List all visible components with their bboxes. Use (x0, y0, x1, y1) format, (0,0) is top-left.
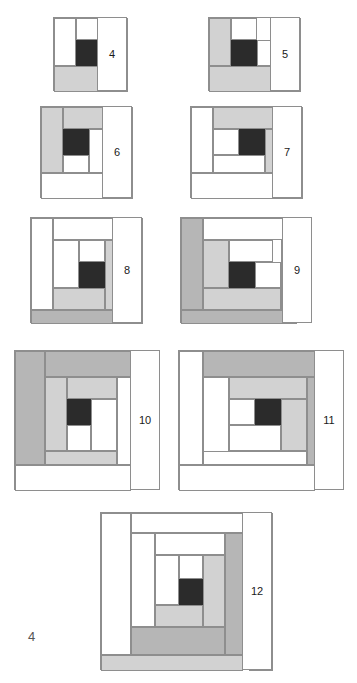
patch-log-7 (203, 351, 315, 377)
patch-center-square (79, 262, 105, 288)
patch-log-1 (179, 555, 203, 579)
block-number-label-5: 5 (270, 17, 300, 91)
page-number: 4 (28, 629, 35, 644)
patch-log-2 (63, 155, 89, 173)
patch-center-square (63, 129, 89, 155)
patch-log-3 (53, 288, 105, 310)
block-number-text: 11 (323, 415, 334, 426)
patch-center-square (67, 399, 91, 425)
patch-log-3 (209, 18, 231, 66)
patch-log-4 (281, 399, 307, 451)
patch-log-3 (203, 240, 229, 288)
patch-center-square (255, 399, 281, 425)
patch-log-6 (117, 377, 131, 465)
patch-log-5 (155, 533, 225, 555)
block-number-label-4: 4 (97, 17, 127, 91)
block-number-label-8: 8 (112, 217, 142, 323)
patch-log-9 (15, 465, 131, 491)
patch-log-9 (131, 513, 249, 533)
block-number-text: 10 (139, 415, 151, 426)
patch-log-5 (191, 107, 213, 173)
patch-log-6 (181, 218, 203, 310)
patch-log-3 (229, 377, 307, 399)
patch-log-3 (54, 66, 102, 92)
patch-log-4 (203, 555, 225, 627)
patch-log-11 (101, 655, 243, 671)
patch-log-1 (79, 240, 105, 262)
patch-center-square (179, 579, 203, 605)
patch-center-square (229, 262, 255, 288)
block-number-text: 8 (124, 265, 130, 276)
patch-log-3 (155, 605, 203, 627)
patch-log-2 (229, 425, 281, 451)
patch-log-10 (101, 513, 131, 655)
diagram-page: 456789101112 4 (0, 0, 357, 683)
patch-log-1 (229, 240, 273, 262)
patch-log-2 (54, 18, 76, 66)
patch-log-1 (229, 399, 255, 425)
patch-log-7 (131, 627, 225, 655)
patch-log-7 (181, 310, 297, 324)
patch-log-1 (67, 425, 91, 451)
patch-log-1 (231, 18, 257, 40)
patch-log-2 (213, 155, 265, 173)
patch-log-8 (15, 351, 45, 465)
patch-center-square (231, 40, 257, 66)
patch-log-2 (53, 240, 79, 288)
block-number-label-11: 11 (314, 350, 344, 490)
patch-log-2 (255, 262, 281, 288)
block-number-text: 4 (109, 49, 115, 60)
patch-log-3 (67, 377, 117, 399)
block-number-text: 6 (114, 147, 120, 158)
patch-log-6 (131, 533, 155, 627)
patch-log-4 (45, 377, 67, 451)
block-number-label-7: 7 (272, 106, 302, 198)
patch-log-6 (31, 218, 53, 310)
patch-log-7 (45, 351, 131, 377)
block-number-label-6: 6 (102, 106, 132, 198)
patch-center-square (239, 129, 265, 155)
block-number-text: 12 (251, 586, 263, 597)
patch-log-4 (203, 288, 281, 310)
block-number-label-12: 12 (242, 512, 272, 670)
patch-log-9 (179, 351, 203, 465)
block-number-label-9: 9 (282, 217, 312, 323)
patch-log-2 (91, 399, 117, 451)
patch-log-4 (41, 107, 63, 173)
patch-log-5 (45, 451, 117, 465)
patch-log-10 (179, 465, 315, 491)
block-number-label-10: 10 (130, 350, 160, 490)
patch-log-2 (155, 555, 179, 605)
block-number-text: 7 (284, 147, 290, 158)
block-number-text: 5 (282, 49, 288, 60)
patch-log-6 (203, 451, 307, 465)
patch-log-1 (213, 129, 239, 155)
block-number-text: 9 (294, 265, 300, 276)
